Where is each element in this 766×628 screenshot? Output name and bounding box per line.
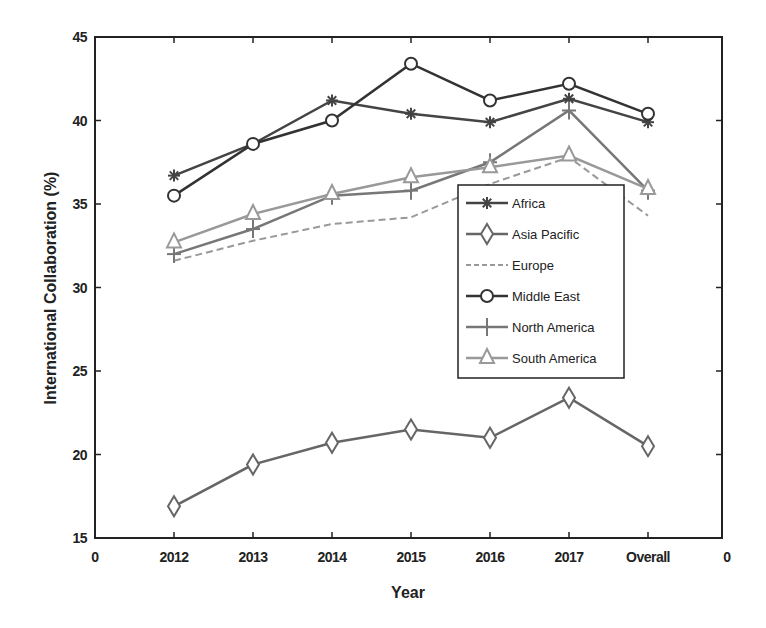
circle-marker-icon <box>481 290 493 302</box>
line-chart: 152025303540450201220132014201520162017O… <box>0 0 766 628</box>
diamond-marker-icon <box>168 496 180 516</box>
x-tick-label: 2017 <box>554 549 584 565</box>
tick-labels: 152025303540450201220132014201520162017O… <box>72 29 731 565</box>
asterisk-marker-icon <box>481 197 493 209</box>
y-tick-label: 25 <box>72 363 87 379</box>
diamond-marker-icon <box>563 388 575 408</box>
x-axis-label: Year <box>391 584 425 601</box>
circle-marker-icon <box>563 78 575 90</box>
circle-marker-icon <box>642 108 654 120</box>
x-tick-label: 0 <box>91 549 99 565</box>
legend-label: South America <box>512 351 597 366</box>
x-tick-label: 2016 <box>475 549 505 565</box>
circle-marker-icon <box>405 58 417 70</box>
y-tick-label: 15 <box>72 530 87 546</box>
x-tick-label: Overall <box>626 549 670 565</box>
x-tick-label: 0 <box>723 549 731 565</box>
legend-label: Middle East <box>512 289 580 304</box>
circle-marker-icon <box>168 190 180 202</box>
y-tick-label: 20 <box>72 447 87 463</box>
legend-label: Africa <box>512 196 546 211</box>
legend-label: Europe <box>512 258 554 273</box>
y-tick-label: 40 <box>72 113 87 129</box>
x-tick-label: 2014 <box>317 549 347 565</box>
diamond-marker-icon <box>326 433 338 453</box>
diamond-marker-icon <box>405 419 417 439</box>
plus-marker-icon <box>246 220 260 238</box>
triangle-marker-icon <box>562 147 576 161</box>
diamond-marker-icon <box>247 455 259 475</box>
y-tick-label: 35 <box>72 196 87 212</box>
legend: AfricaAsia PacificEuropeMiddle EastNorth… <box>458 185 624 378</box>
diamond-marker-icon <box>484 428 496 448</box>
triangle-marker-icon <box>404 168 418 182</box>
circle-marker-icon <box>247 138 259 150</box>
circle-marker-icon <box>484 94 496 106</box>
legend-item: South America <box>466 349 597 366</box>
legend-box <box>458 185 624 378</box>
plus-marker-icon <box>404 182 418 200</box>
y-tick-label: 30 <box>72 280 87 296</box>
y-axis-label: International Collaboration (%) <box>42 172 59 405</box>
y-tick-label: 45 <box>72 29 87 45</box>
legend-label: Asia Pacific <box>512 227 580 242</box>
asterisk-marker-icon <box>326 94 338 106</box>
asterisk-marker-icon <box>484 116 496 128</box>
series-asia-pacific <box>168 388 654 517</box>
diamond-marker-icon <box>642 436 654 456</box>
x-tick-label: 2012 <box>159 549 189 565</box>
asterisk-marker-icon <box>405 108 417 120</box>
asterisk-marker-icon <box>168 170 180 182</box>
x-tick-label: 2015 <box>396 549 426 565</box>
legend-label: North America <box>512 320 595 335</box>
circle-marker-icon <box>326 115 338 127</box>
x-tick-label: 2013 <box>238 549 268 565</box>
legend-item: Middle East <box>466 289 580 304</box>
